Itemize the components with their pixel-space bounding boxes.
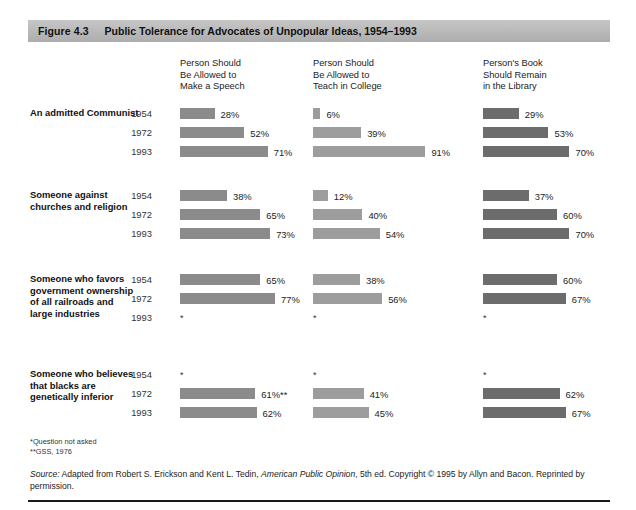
bar-library — [483, 108, 519, 119]
bar-value-label: 41% — [370, 389, 389, 400]
bar-speech — [180, 228, 270, 239]
bar-library — [483, 293, 566, 304]
year-label: 1993 — [126, 407, 152, 418]
source-label: Source: — [30, 469, 60, 479]
not-asked-marker: * — [180, 370, 184, 380]
bar-speech — [180, 108, 215, 119]
bar-library — [483, 274, 557, 285]
bar-teach — [313, 407, 369, 418]
year-label: 1993 — [126, 146, 152, 157]
bar-speech — [180, 293, 275, 304]
bar-teach — [313, 190, 328, 201]
bar-value-label: 60% — [563, 275, 582, 286]
bar-value-label: 67% — [572, 294, 591, 305]
bar-library — [483, 407, 566, 418]
source-note: Source: Adapted from Robert S. Erickson … — [30, 468, 600, 493]
chart-area: Person Should Be Allowed to Make a Speec… — [0, 0, 636, 510]
not-asked-marker: * — [483, 313, 487, 323]
year-label: 1954 — [126, 108, 152, 119]
source-text-before: Adapted from Robert S. Erickson and Kent… — [60, 469, 261, 479]
bar-speech — [180, 146, 268, 157]
bar-value-label: 52% — [250, 128, 269, 139]
bar-value-label: 39% — [367, 128, 386, 139]
year-label: 1954 — [126, 274, 152, 285]
bar-value-label: 62% — [263, 408, 282, 419]
bar-value-label: 12% — [334, 191, 353, 202]
year-label: 1993 — [126, 312, 152, 323]
bar-teach — [313, 209, 362, 220]
bottom-divider — [28, 500, 610, 502]
bar-value-label: 40% — [368, 210, 387, 221]
year-label: 1954 — [126, 190, 152, 201]
footnote-question-not-asked: *Question not asked — [30, 437, 97, 446]
bar-value-label: 70% — [575, 229, 594, 240]
not-asked-marker: * — [313, 370, 317, 380]
bar-speech — [180, 209, 260, 220]
bar-teach — [313, 146, 425, 157]
bar-teach — [313, 274, 360, 285]
year-label: 1972 — [126, 127, 152, 138]
bar-library — [483, 146, 569, 157]
year-label: 1993 — [126, 228, 152, 239]
not-asked-marker: * — [180, 313, 184, 323]
bar-value-label: 6% — [326, 109, 340, 120]
bar-value-label: 45% — [375, 408, 394, 419]
bar-value-label: 91% — [431, 147, 450, 158]
bar-speech — [180, 407, 257, 418]
year-label: 1972 — [126, 209, 152, 220]
bar-speech — [180, 127, 244, 138]
bar-speech — [180, 274, 260, 285]
bar-value-label: 38% — [233, 191, 252, 202]
column-header-library: Person's Book Should Remain in the Libra… — [483, 58, 547, 93]
source-book-title: American Public Opinion — [261, 469, 355, 479]
year-label: 1972 — [126, 388, 152, 399]
bar-library — [483, 190, 529, 201]
bar-value-label: 70% — [575, 147, 594, 158]
footnote-gss: **GSS, 1976 — [30, 447, 72, 456]
bar-value-label: 28% — [221, 109, 240, 120]
bar-value-label: 71% — [274, 147, 293, 158]
bar-library — [483, 209, 557, 220]
bar-value-label: 37% — [535, 191, 554, 202]
bar-value-label: 61%** — [261, 389, 287, 400]
bar-teach — [313, 293, 382, 304]
bar-value-label: 56% — [388, 294, 407, 305]
bar-teach — [313, 108, 320, 119]
bar-value-label: 38% — [366, 275, 385, 286]
bar-library — [483, 127, 548, 138]
bar-value-label: 54% — [386, 229, 405, 240]
bar-value-label: 65% — [266, 275, 285, 286]
year-label: 1972 — [126, 293, 152, 304]
bar-value-label: 29% — [525, 109, 544, 120]
column-header-teach: Person Should Be Allowed to Teach in Col… — [313, 58, 382, 93]
bar-speech — [180, 388, 255, 399]
year-label: 1954 — [126, 369, 152, 380]
bar-value-label: 67% — [572, 408, 591, 419]
bar-teach — [313, 127, 361, 138]
not-asked-marker: * — [313, 313, 317, 323]
bar-value-label: 73% — [276, 229, 295, 240]
bar-value-label: 60% — [563, 210, 582, 221]
bar-value-label: 77% — [281, 294, 300, 305]
not-asked-marker: * — [483, 370, 487, 380]
bar-teach — [313, 228, 380, 239]
bar-value-label: 53% — [554, 128, 573, 139]
bar-value-label: 65% — [266, 210, 285, 221]
bar-value-label: 62% — [566, 389, 585, 400]
bar-library — [483, 228, 569, 239]
bar-library — [483, 388, 560, 399]
column-header-speech: Person Should Be Allowed to Make a Speec… — [180, 58, 245, 93]
bar-speech — [180, 190, 227, 201]
bar-teach — [313, 388, 364, 399]
